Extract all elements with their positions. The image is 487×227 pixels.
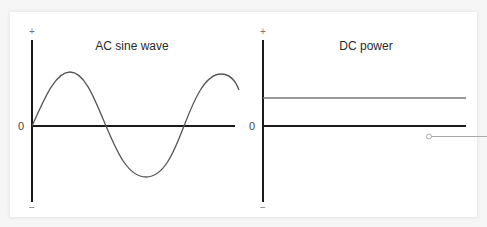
ac-title: AC sine wave	[95, 39, 169, 53]
diagram-canvas: + − 0 AC sine wave + − 0 DC power	[0, 0, 487, 227]
dc-title: DC power	[339, 39, 392, 53]
dc-y-plus-label: +	[260, 26, 266, 37]
ac-zero-label: 0	[18, 120, 24, 132]
ac-panel: + − 0 AC sine wave	[18, 26, 239, 213]
dc-zero-label: 0	[249, 120, 255, 132]
dc-y-minus-label: −	[260, 202, 266, 213]
ac-sine-curve	[32, 72, 239, 177]
callout	[427, 134, 487, 139]
dc-panel: + − 0 DC power	[249, 26, 466, 213]
ac-y-minus-label: −	[29, 202, 35, 213]
callout-marker-icon	[427, 134, 432, 139]
ac-y-plus-label: +	[29, 26, 35, 37]
